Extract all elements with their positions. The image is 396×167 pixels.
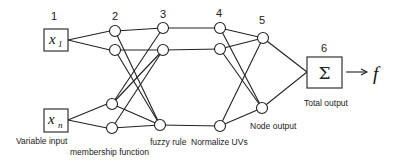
sigma-icon: Σ <box>318 63 330 83</box>
layer-4-nodes <box>215 23 226 132</box>
input-node-xn: x n <box>44 109 68 132</box>
svg-text:x: x <box>48 31 56 47</box>
svg-text:n: n <box>58 120 63 130</box>
anfis-diagram: x 1 x n Σ f 1 2 3 4 5 6 Variable i <box>0 0 396 167</box>
caption-node-output: Node output <box>250 121 297 131</box>
layer-number-5: 5 <box>259 14 265 26</box>
svg-text:1: 1 <box>58 39 63 49</box>
caption-fuzzy-rule: fuzzy rule <box>150 137 187 147</box>
input-node-x1: x 1 <box>44 29 68 51</box>
svg-text:x: x <box>47 111 55 127</box>
layer-number-6: 6 <box>321 42 327 54</box>
output-f: f <box>373 63 381 84</box>
caption-variable-input: Variable input <box>16 136 68 146</box>
layer-number-3: 3 <box>160 8 166 20</box>
caption-membership-function: membership function <box>70 147 149 157</box>
caption-normalize-uvs: Normalize UVs <box>191 137 248 147</box>
layer-number-2: 2 <box>112 10 118 22</box>
layer-number-1: 1 <box>51 10 57 22</box>
caption-total-output: Total output <box>304 98 349 108</box>
layer-number-4: 4 <box>216 7 222 19</box>
summation-node: Σ <box>307 57 342 88</box>
layer-3-nodes <box>155 23 169 131</box>
